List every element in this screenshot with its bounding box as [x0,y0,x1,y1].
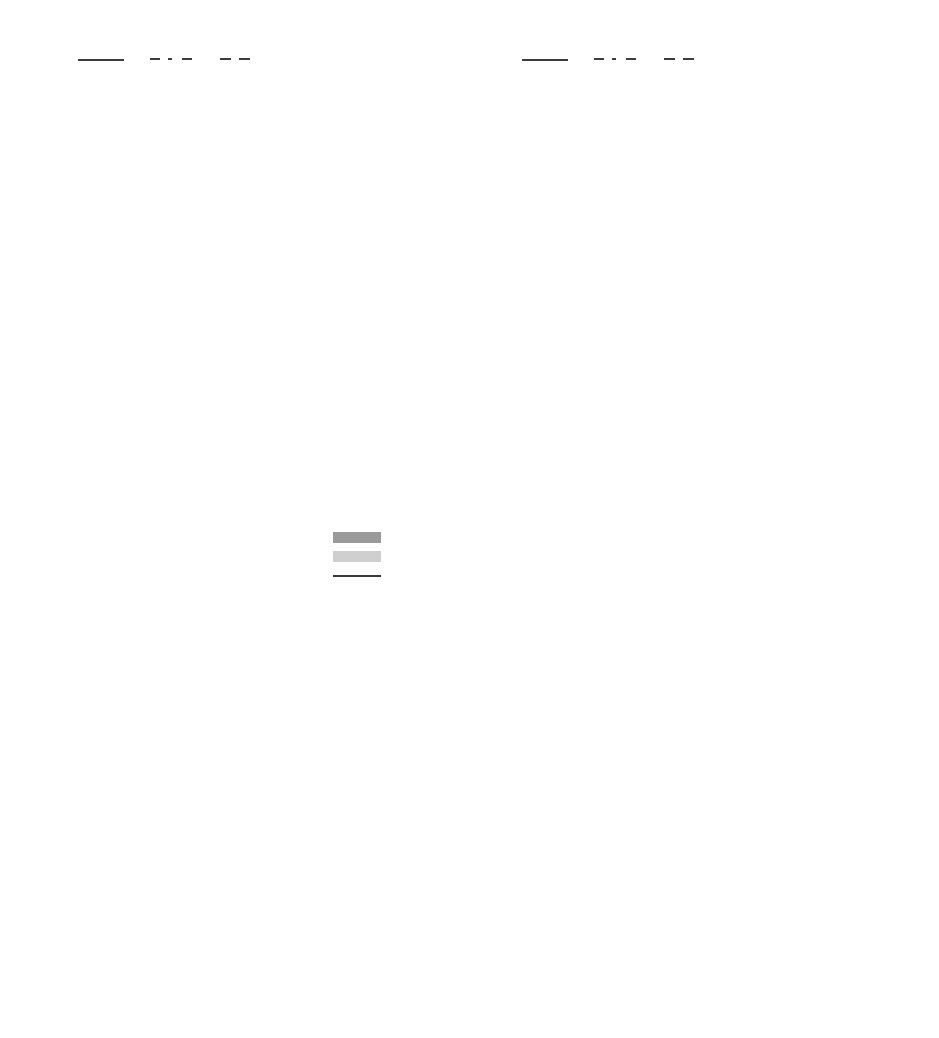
fill-light-swatch-icon [333,551,381,562]
line-solid-icon [78,59,124,61]
panel-a [0,0,470,500]
panel-b [470,0,939,500]
legend-item-15-85 [220,58,274,61]
panel-a-plot [0,0,470,500]
legend-item-25-75 [594,58,648,61]
line-solid-icon [522,59,568,61]
legend-item-impact-fg [333,528,390,547]
panel-c [0,500,939,1038]
panel-b-plot [470,0,939,500]
legend-item-15-85 [664,58,718,61]
legend-item-25-75 [150,58,204,61]
panel-b-legend [522,58,718,61]
panel-a-legend [78,58,274,61]
legend-item-impact-nirp [333,547,390,566]
line-dash-icon [664,58,712,61]
legend-item-50th [78,59,130,61]
line-solid-icon [333,575,381,577]
line-dash-icon [220,58,268,61]
fill-dark-swatch-icon [333,532,381,543]
panel-c-legend [333,528,390,585]
legend-item-overall [333,566,390,585]
line-dashdot-icon [594,58,642,61]
line-dashdot-icon [150,58,198,61]
legend-item-50th [522,59,574,61]
panel-c-plot [0,500,939,1038]
